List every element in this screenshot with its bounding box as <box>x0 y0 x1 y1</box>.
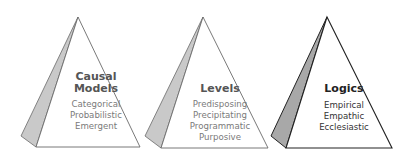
pyramid-item: Probabilistic <box>70 110 122 120</box>
pyramid-item: Categorical <box>72 99 121 109</box>
pyramid-item: Empathic <box>324 111 365 121</box>
pyramid-causal-models: Causal Models Categorical Probabilistic … <box>21 17 140 147</box>
pyramid-item: Empirical <box>324 100 364 110</box>
pyramid-title-line: Models <box>74 82 119 95</box>
pyramid-levels: Levels Predisposing Precipitating Progra… <box>145 17 268 148</box>
pyramid-item: Precipitating <box>193 110 247 120</box>
pyramid-item: Programmatic <box>190 121 251 131</box>
pyramid-item: Emergent <box>75 121 118 131</box>
pyramids-diagram: Causal Models Categorical Probabilistic … <box>0 0 412 164</box>
pyramid-title-line: Logics <box>324 82 364 95</box>
pyramid-title-line: Levels <box>200 82 240 95</box>
pyramid-logics: Logics Empirical Empathic Ecclesiastic <box>271 17 392 148</box>
pyramid-item: Purposive <box>199 132 241 142</box>
pyramid-item: Predisposing <box>193 99 247 109</box>
pyramid-item: Ecclesiastic <box>319 122 369 132</box>
